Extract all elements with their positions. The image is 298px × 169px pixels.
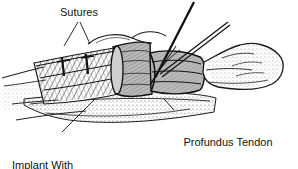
- dorsal-contour: [88, 32, 166, 44]
- profundus-tendon-stump: [146, 46, 210, 100]
- label-profundus-line1: Profundus Tendon: [166, 136, 290, 149]
- leader-sutures-left: [64, 22, 78, 46]
- distal-phalanx-bone: [200, 40, 290, 95]
- label-implant-line1: Implant With: [12, 159, 87, 169]
- label-sutures: Sutures: [60, 6, 98, 19]
- leader-sutures-right: [80, 22, 90, 44]
- label-profundus: Profundus Tendon Stump: [166, 111, 290, 169]
- label-implant: Implant With Plate Removed: [12, 134, 87, 169]
- illustration-canvas: Sutures Implant With Plate Removed Profu…: [0, 0, 298, 169]
